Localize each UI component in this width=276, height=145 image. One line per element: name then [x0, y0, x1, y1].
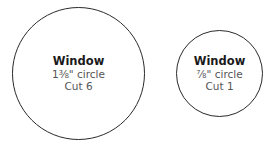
piece-name: Window [194, 55, 246, 68]
small-window-circle: Window ⅞" circle Cut 1 [176, 30, 263, 117]
piece-name: Window [53, 55, 105, 68]
large-window-circle: Window 1⅜" circle Cut 6 [12, 7, 145, 140]
piece-size: ⅞" circle [196, 68, 242, 80]
piece-size: 1⅜" circle [52, 68, 105, 80]
piece-cut-count: Cut 1 [205, 80, 233, 92]
piece-cut-count: Cut 6 [64, 80, 92, 92]
